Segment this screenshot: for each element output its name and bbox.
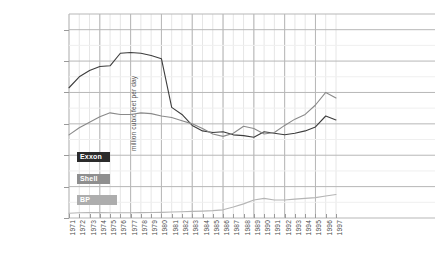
x-tick-label: 1983 bbox=[192, 220, 199, 235]
y-tick-mark bbox=[64, 124, 69, 125]
y-tick-mark bbox=[64, 30, 69, 31]
x-tick-label: 1995 bbox=[315, 220, 322, 235]
x-tick-mark bbox=[295, 214, 296, 218]
x-tick-label: 1971 bbox=[69, 220, 76, 235]
x-tick-label: 1981 bbox=[172, 220, 179, 235]
x-tick-label: 1985 bbox=[213, 220, 220, 235]
x-tick-mark bbox=[223, 214, 224, 218]
x-tick-label: 1992 bbox=[285, 220, 292, 235]
x-tick-label: 1990 bbox=[264, 220, 271, 235]
x-tick-label: 1977 bbox=[131, 220, 138, 235]
x-tick-label: 1976 bbox=[120, 220, 127, 235]
x-tick-mark bbox=[69, 214, 70, 218]
y-tick-mark bbox=[64, 61, 69, 62]
x-tick-label: 1982 bbox=[182, 220, 189, 235]
x-tick-mark bbox=[336, 214, 337, 218]
legend-item-shell[interactable]: Shell bbox=[77, 174, 110, 184]
x-tick-mark bbox=[244, 214, 245, 218]
x-tick-mark bbox=[305, 214, 306, 218]
chart-container: 020004000600080001000012000 197119721973… bbox=[0, 0, 440, 267]
x-tick-mark bbox=[182, 214, 183, 218]
x-tick-label: 1993 bbox=[295, 220, 302, 235]
x-tick-label: 1987 bbox=[233, 220, 240, 235]
x-tick-mark bbox=[274, 214, 275, 218]
x-tick-mark bbox=[120, 214, 121, 218]
x-tick-mark bbox=[203, 214, 204, 218]
x-tick-mark bbox=[213, 214, 214, 218]
x-tick-label: 1979 bbox=[151, 220, 158, 235]
x-tick-label: 1980 bbox=[161, 220, 168, 235]
x-tick-label: 1996 bbox=[326, 220, 333, 235]
series-line-exxon bbox=[69, 52, 336, 137]
x-tick-mark bbox=[110, 214, 111, 218]
x-tick-label: 1984 bbox=[203, 220, 210, 235]
y-tick-mark bbox=[64, 187, 69, 188]
x-tick-label: 1986 bbox=[223, 220, 230, 235]
x-tick-label: 1994 bbox=[305, 220, 312, 235]
x-tick-label: 1991 bbox=[274, 220, 281, 235]
x-tick-mark bbox=[141, 214, 142, 218]
legend-label: Shell bbox=[80, 175, 98, 182]
x-tick-mark bbox=[161, 214, 162, 218]
x-tick-label: 1978 bbox=[141, 220, 148, 235]
x-tick-label: 1989 bbox=[254, 220, 261, 235]
series-line-shell bbox=[69, 92, 336, 136]
x-tick-label: 1972 bbox=[79, 220, 86, 235]
plot-area: 020004000600080001000012000 197119721973… bbox=[69, 14, 435, 218]
x-tick-label: 1973 bbox=[90, 220, 97, 235]
x-tick-mark bbox=[151, 214, 152, 218]
x-tick-mark bbox=[172, 214, 173, 218]
x-tick-mark bbox=[100, 214, 101, 218]
legend-label: BP bbox=[80, 196, 90, 203]
x-tick-label: 1974 bbox=[100, 220, 107, 235]
x-tick-mark bbox=[254, 214, 255, 218]
x-tick-mark bbox=[131, 214, 132, 218]
x-tick-mark bbox=[264, 214, 265, 218]
legend-label: Exxon bbox=[80, 153, 102, 160]
y-tick-mark bbox=[64, 155, 69, 156]
x-tick-label: 1975 bbox=[110, 220, 117, 235]
x-tick-label: 1997 bbox=[336, 220, 343, 235]
legend-item-exxon[interactable]: Exxon bbox=[77, 152, 110, 162]
x-tick-mark bbox=[79, 214, 80, 218]
y-tick-mark bbox=[64, 218, 69, 219]
x-tick-mark bbox=[285, 214, 286, 218]
legend-item-bp[interactable]: BP bbox=[77, 195, 117, 205]
x-tick-mark bbox=[315, 214, 316, 218]
chart-series-layer bbox=[69, 14, 435, 218]
x-tick-mark bbox=[233, 214, 234, 218]
x-tick-mark bbox=[192, 214, 193, 218]
x-tick-label: 1988 bbox=[244, 220, 251, 235]
x-tick-mark bbox=[90, 214, 91, 218]
y-tick-mark bbox=[64, 92, 69, 93]
y-axis-label: million cubic feet per day bbox=[130, 24, 137, 204]
x-tick-mark bbox=[326, 214, 327, 218]
